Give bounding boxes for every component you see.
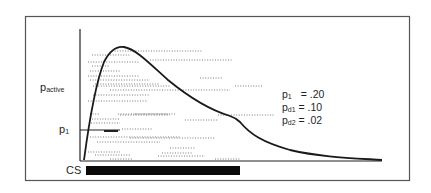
param-p1-value: = .20 xyxy=(301,88,325,100)
y-label-p1: p1 xyxy=(59,124,69,135)
param-pd2-value: = .02 xyxy=(299,114,323,126)
param-p1-sub: 1 xyxy=(288,93,292,100)
dotted-traces xyxy=(88,51,275,159)
param-pd2: pd2 = .02 xyxy=(282,115,322,126)
figure-frame xyxy=(26,17,410,181)
param-pd1-value: = .10 xyxy=(299,101,323,113)
param-pd1-sub: d1 xyxy=(288,106,296,113)
y-label-p-active: pactive xyxy=(40,82,64,93)
param-p1: p1 = .20 xyxy=(282,89,324,100)
figure-canvas xyxy=(0,0,431,193)
y-label-p1-sub: 1 xyxy=(65,128,69,135)
param-pd1: pd1 = .10 xyxy=(282,102,322,113)
param-pd2-sub: d2 xyxy=(288,119,296,126)
response-curve xyxy=(84,47,382,160)
x-label-cs: CS xyxy=(66,165,81,176)
cs-bar xyxy=(86,166,240,175)
y-label-p-active-sub: active xyxy=(46,86,64,93)
